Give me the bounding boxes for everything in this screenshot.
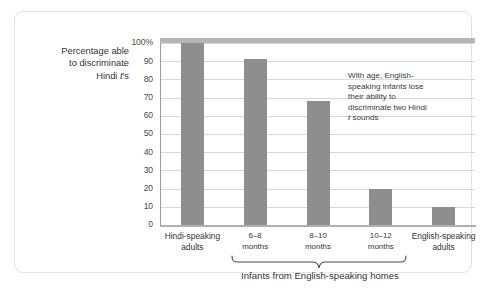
x-category-label-line-1: English-speaking [407, 231, 481, 242]
annotation-line-5-rest: sounds [350, 113, 378, 122]
x-axis-line [160, 225, 476, 227]
x-category-label-line-2: adults [407, 242, 481, 253]
annotation-line-1: With age, English- [348, 71, 414, 80]
y-axis-title-line-1: Percentage able [21, 45, 129, 57]
age-annotation: With age, English- speaking infants lose… [348, 71, 456, 124]
y-tick-label: 10 [117, 201, 153, 211]
annotation-line-2: speaking infants lose [348, 82, 424, 91]
y-tick-label: 40 [117, 147, 153, 157]
group-brace-icon [230, 255, 408, 269]
y-axis-title: Percentage able to discriminate Hindi t'… [21, 45, 129, 82]
bar [244, 59, 267, 225]
y-axis-title-line-2: to discriminate [21, 57, 129, 69]
gridline [161, 61, 475, 62]
chart-card: Percentage able to discriminate Hindi t'… [14, 11, 472, 273]
group-caption: Infants from English-speaking homes [160, 270, 480, 281]
y-tick-label: 60 [117, 110, 153, 120]
y-tick-label: 20 [117, 183, 153, 193]
bar [307, 101, 330, 225]
y-tick-label: 30 [117, 165, 153, 175]
bar [181, 43, 204, 225]
y-tick-label: 80 [117, 74, 153, 84]
bar [432, 207, 455, 225]
annotation-line-3: their ability to [348, 92, 396, 101]
y-tick-label: 50 [117, 128, 153, 138]
y-axis-title-line-3: Hindi t's [21, 70, 129, 82]
bar [369, 189, 392, 225]
y-tick-label: 100% [117, 37, 153, 47]
x-category-label: English-speakingadults [407, 231, 481, 252]
y-tick-label: 0 [117, 219, 153, 229]
gridline [161, 43, 475, 44]
y-tick-label: 90 [117, 56, 153, 66]
annotation-line-4: discriminate two Hindi [348, 103, 427, 112]
y-tick-label: 70 [117, 92, 153, 102]
